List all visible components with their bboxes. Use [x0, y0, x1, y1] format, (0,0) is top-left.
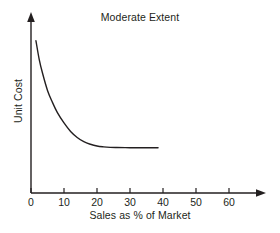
x-axis-title: Sales as % of Market [0, 209, 280, 221]
x-tick-label-20: 20 [84, 196, 110, 208]
unit-cost-curve [36, 41, 158, 148]
chart-container: Moderate Extent Unit Cost Sales as % of … [0, 0, 280, 233]
x-axis-arrow [256, 189, 266, 197]
x-tick-label-40: 40 [150, 196, 176, 208]
x-tick-label-10: 10 [51, 196, 77, 208]
x-tick-label-50: 50 [183, 196, 209, 208]
x-axis-ticks [31, 188, 229, 193]
x-tick-label-30: 30 [117, 196, 143, 208]
chart-title: Moderate Extent [0, 11, 280, 23]
y-axis-title: Unit Cost [12, 61, 24, 141]
x-tick-label-0: 0 [18, 196, 44, 208]
x-tick-label-60: 60 [216, 196, 242, 208]
